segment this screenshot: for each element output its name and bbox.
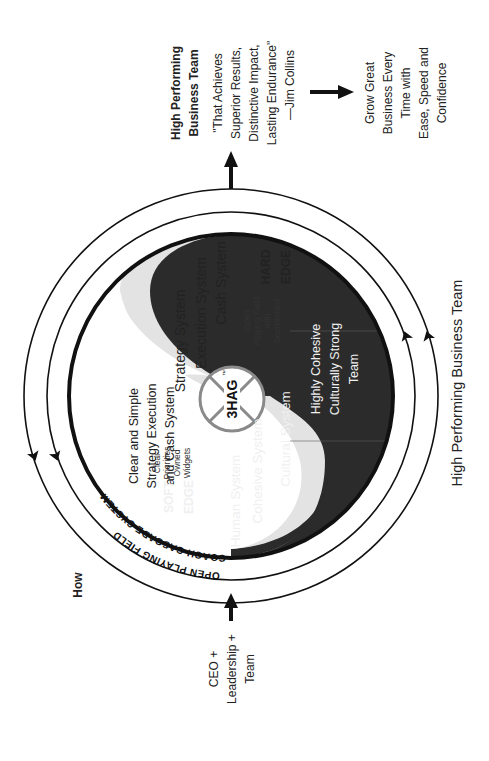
cash-system-label: Cash System xyxy=(213,241,229,324)
soft-edge-word: EDGE xyxy=(182,480,196,514)
diagram-caption: High Performing Business Team xyxy=(449,280,465,487)
soft-edge-word: SOFT xyxy=(162,480,176,513)
note-line: Playing Field xyxy=(252,296,262,345)
soft-summary-line: Team xyxy=(347,354,361,385)
quote-line: Superior Results, xyxy=(229,47,243,139)
soft-summary-line: Highly Cohesive xyxy=(309,324,323,414)
soft-summary-line: Culturally Strong xyxy=(328,323,342,415)
diagram-canvas: 3HAG ™ OPEN PLAYING FIELD COACH CASCADE … xyxy=(0,0,489,761)
input-arrow-icon xyxy=(224,593,238,608)
note-line: Owned xyxy=(172,449,182,476)
heading-line: High Performing xyxy=(169,46,183,140)
quote-line: Lasting Endurance" xyxy=(265,41,279,145)
output-heading: High Performing Business Team xyxy=(169,46,201,140)
strategy-system-label: Strategy System xyxy=(172,290,188,393)
center-label: 3HAG xyxy=(224,379,240,418)
hard-edge-word: HARD xyxy=(259,249,273,284)
quote-line: —Jim Collins xyxy=(283,50,297,120)
cultural-system-label: Cultural System xyxy=(278,391,293,486)
quote-line: "That Achieves xyxy=(211,53,225,133)
center-trademark: ™ xyxy=(222,370,228,376)
result-label: Grow Great Business Every Time with Ease… xyxy=(363,47,449,139)
quote-line: Distinctive Impact, xyxy=(247,44,261,141)
human-system-label: Human System xyxy=(228,455,243,547)
note-line: Priorities xyxy=(162,446,172,479)
cohesive-system-label: Cohesive System xyxy=(250,418,265,523)
hard-edge-word: EDGE xyxy=(279,250,293,284)
result-line: Confidence xyxy=(435,62,449,123)
result-line: Business Every xyxy=(381,52,395,135)
input-block: CEO + Leadership + Team xyxy=(207,593,257,704)
input-line: Leadership + xyxy=(225,634,239,704)
input-label: CEO + Leadership + Team xyxy=(207,634,257,704)
output-block: High Performing Business Team "That Achi… xyxy=(169,41,297,189)
result-line: Grow Great xyxy=(363,61,377,124)
how-label: How xyxy=(71,572,85,598)
note-line: Clear xyxy=(152,453,162,473)
hard-summary-line: Clear and Simple xyxy=(127,388,141,484)
input-line: CEO + xyxy=(207,651,221,687)
result-line: Ease, Speed and xyxy=(417,47,431,139)
note-line: Scoreboard xyxy=(272,299,282,343)
result-block: Grow Great Business Every Time with Ease… xyxy=(310,47,449,139)
note-line: Widgets xyxy=(182,448,192,479)
collins-quote: "That Achieves Superior Results, Distinc… xyxy=(211,41,297,145)
input-line: Team xyxy=(243,654,257,683)
result-arrow-icon xyxy=(338,85,354,99)
result-line: Time with xyxy=(399,68,413,119)
execution-system-label: Execution System xyxy=(193,257,209,369)
heading-line: Business Team xyxy=(187,49,201,136)
note-line: with xyxy=(262,313,272,329)
note-line: Open xyxy=(242,310,252,331)
output-arrow-icon xyxy=(224,151,238,167)
